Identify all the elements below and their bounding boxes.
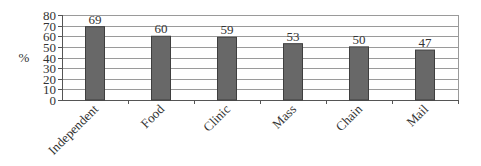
value-label: 50	[353, 32, 366, 47]
y-axis-label: %	[19, 50, 30, 65]
category-label: Chain	[333, 101, 366, 134]
category-label: Clinic	[200, 101, 233, 134]
bars: 696059535047	[86, 12, 435, 100]
bar-clinic	[218, 37, 237, 100]
value-label: 47	[419, 35, 433, 50]
value-label: 69	[89, 12, 102, 27]
category-label: Mass	[269, 102, 299, 132]
bar-food	[152, 36, 171, 100]
category-label: Mail	[403, 101, 431, 129]
bar-mail	[416, 50, 435, 100]
bar-chain	[350, 47, 369, 100]
bar-independent	[86, 27, 105, 100]
gridlines	[62, 15, 459, 101]
value-label: 53	[287, 29, 300, 44]
bar-mass	[284, 44, 303, 100]
bar-chart: 01020304050607080 696059535047 Independe…	[0, 0, 481, 166]
category-label: Food	[138, 101, 168, 131]
y-tick-label: 80	[43, 8, 56, 23]
x-axis-ticks: IndependentFoodClinicMassChainMail	[45, 100, 458, 158]
y-axis-ticks: 01020304050607080	[43, 8, 62, 108]
value-label: 60	[155, 21, 168, 36]
value-label: 59	[221, 22, 234, 37]
category-label: Independent	[45, 101, 101, 157]
